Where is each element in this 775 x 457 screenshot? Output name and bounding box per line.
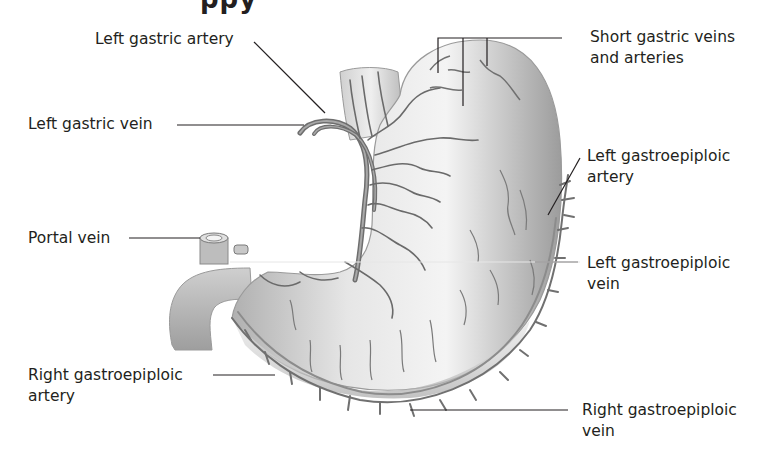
- label-short-gastric-line1: Short gastric veins: [590, 27, 735, 48]
- label-right-gastroepiploic-artery: Right gastroepiploic artery: [28, 365, 183, 407]
- label-right-gastroepiploic-vein-line2: vein: [582, 421, 737, 442]
- portal-vein-vessel: [200, 233, 248, 264]
- label-right-gastroepiploic-artery-line1: Right gastroepiploic: [28, 365, 183, 386]
- label-short-gastric: Short gastric veins and arteries: [590, 27, 735, 69]
- stomach-blood-supply-diagram: ppy: [0, 0, 775, 457]
- label-left-gastroepiploic-artery-line1: Left gastroepiploic: [587, 146, 730, 167]
- label-left-gastroepiploic-vein: Left gastroepiploic vein: [587, 253, 730, 295]
- label-portal-vein: Portal vein: [28, 228, 110, 249]
- label-short-gastric-line2: and arteries: [590, 48, 735, 69]
- label-left-gastric-artery: Left gastric artery: [95, 29, 234, 50]
- label-left-gastric-vein: Left gastric vein: [28, 114, 153, 135]
- label-right-gastroepiploic-artery-line2: artery: [28, 386, 183, 407]
- label-left-gastroepiploic-artery: Left gastroepiploic artery: [587, 146, 730, 188]
- label-left-gastroepiploic-artery-line2: artery: [587, 167, 730, 188]
- label-left-gastroepiploic-vein-line1: Left gastroepiploic: [587, 253, 730, 274]
- label-right-gastroepiploic-vein-line1: Right gastroepiploic: [582, 400, 737, 421]
- label-right-gastroepiploic-vein: Right gastroepiploic vein: [582, 400, 737, 442]
- label-left-gastroepiploic-vein-line2: vein: [587, 274, 730, 295]
- leader-left-gastric-artery: [254, 42, 325, 113]
